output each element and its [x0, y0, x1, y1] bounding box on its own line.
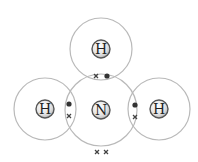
atom-symbol: H: [153, 101, 165, 117]
atom-symbol: N: [95, 102, 107, 118]
atom-h-right: H: [150, 100, 168, 118]
electron-dot: [104, 73, 109, 78]
atom-h-left: H: [36, 100, 54, 118]
diagram-canvas: H H N H: [0, 0, 198, 162]
electron-dot: [132, 102, 137, 107]
atom-symbol: H: [39, 101, 51, 117]
lone-pair-cross: [95, 150, 99, 154]
electron-dot: [66, 101, 71, 106]
electron-cross: [67, 114, 71, 118]
nh3-diagram: H H N H: [0, 0, 198, 162]
atom-h-top: H: [92, 40, 110, 58]
lone-pair-cross: [104, 150, 108, 154]
atom-n-center: N: [92, 101, 110, 119]
atom-symbol: H: [95, 41, 107, 57]
